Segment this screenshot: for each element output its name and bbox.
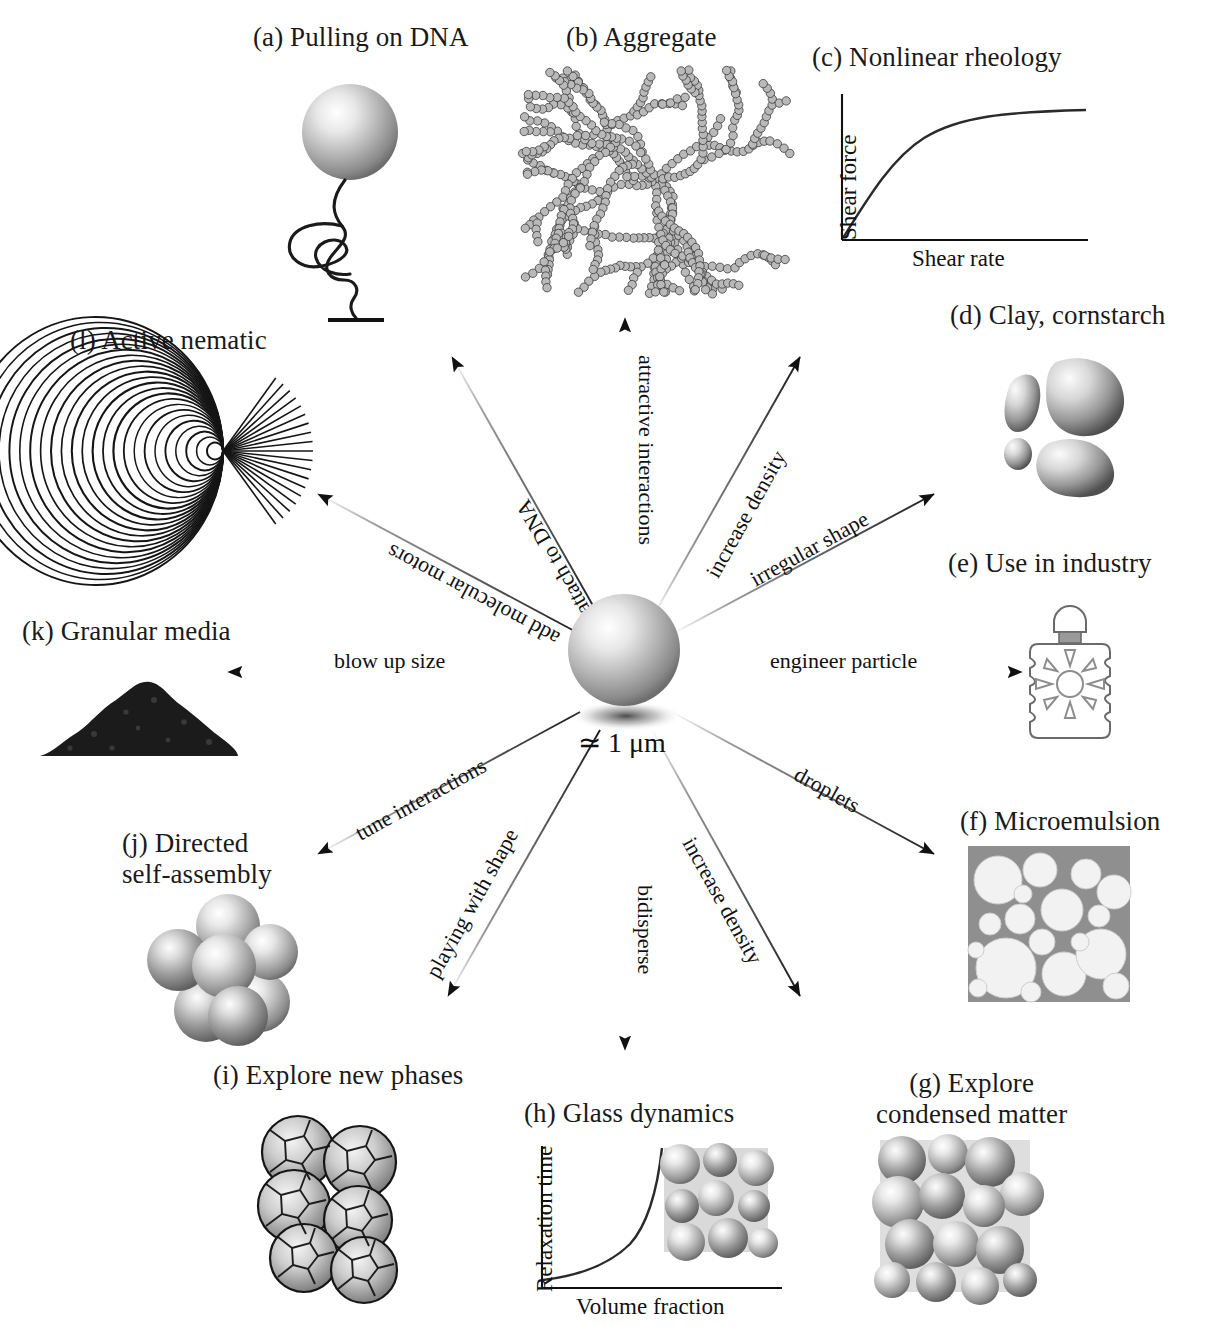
bead-tethered-dna-art <box>272 74 492 326</box>
panel-label-c: (c) Nonlinear rheology <box>812 42 1062 73</box>
panel-label-e: (e) Use in industry <box>948 548 1152 579</box>
arrow-label-blow-up-size: blow up size <box>334 648 445 674</box>
rheology-ylabel: Shear force <box>836 135 862 240</box>
panel-label-g: (g) Explore condensed matter <box>876 1068 1067 1131</box>
sphere-cluster-art <box>148 890 318 1050</box>
panel-label-b: (b) Aggregate <box>566 22 717 53</box>
panel-label-k: (k) Granular media <box>22 616 231 647</box>
panel-label-j: (j) Directed self-assembly <box>122 828 272 891</box>
colloid-overview-figure: attractive interactions attach to DNA ad… <box>0 0 1206 1337</box>
granular-pile-art <box>34 660 244 770</box>
arrow-label-bidisperse: bidisperse <box>632 885 658 974</box>
dense-sphere-packing-micrograph <box>880 1140 1030 1292</box>
panel-label-h: (h) Glass dynamics <box>524 1098 734 1129</box>
sunscreen-bottle-art <box>1010 592 1130 747</box>
center-scale-label: ≃ 1 μm <box>578 726 666 759</box>
glass-ylabel: Relaxation time <box>532 1146 558 1292</box>
panel-label-f: (f) Microemulsion <box>960 806 1160 837</box>
panel-label-i: (i) Explore new phases <box>213 1060 463 1091</box>
fractal-cluster-art <box>512 62 802 302</box>
irregular-grains-art <box>990 348 1140 503</box>
panel-label-d: (d) Clay, cornstarch <box>950 300 1165 331</box>
nematic-defect-lines <box>95 370 270 532</box>
center-colloidal-sphere <box>548 588 704 738</box>
glass-xlabel: Volume fraction <box>576 1294 724 1320</box>
rheology-plot <box>820 88 1100 268</box>
emulsion-droplets-micrograph <box>968 846 1130 1002</box>
arrow-label-engineer-particle: engineer particle <box>770 648 917 674</box>
arrow-label-attractive-interactions: attractive interactions <box>633 355 659 545</box>
panel-label-a: (a) Pulling on DNA <box>253 22 469 53</box>
rheology-xlabel: Shear rate <box>912 246 1005 272</box>
glass-inset-spheres <box>664 1148 768 1252</box>
faceted-polyhedra-cluster <box>248 1110 438 1300</box>
